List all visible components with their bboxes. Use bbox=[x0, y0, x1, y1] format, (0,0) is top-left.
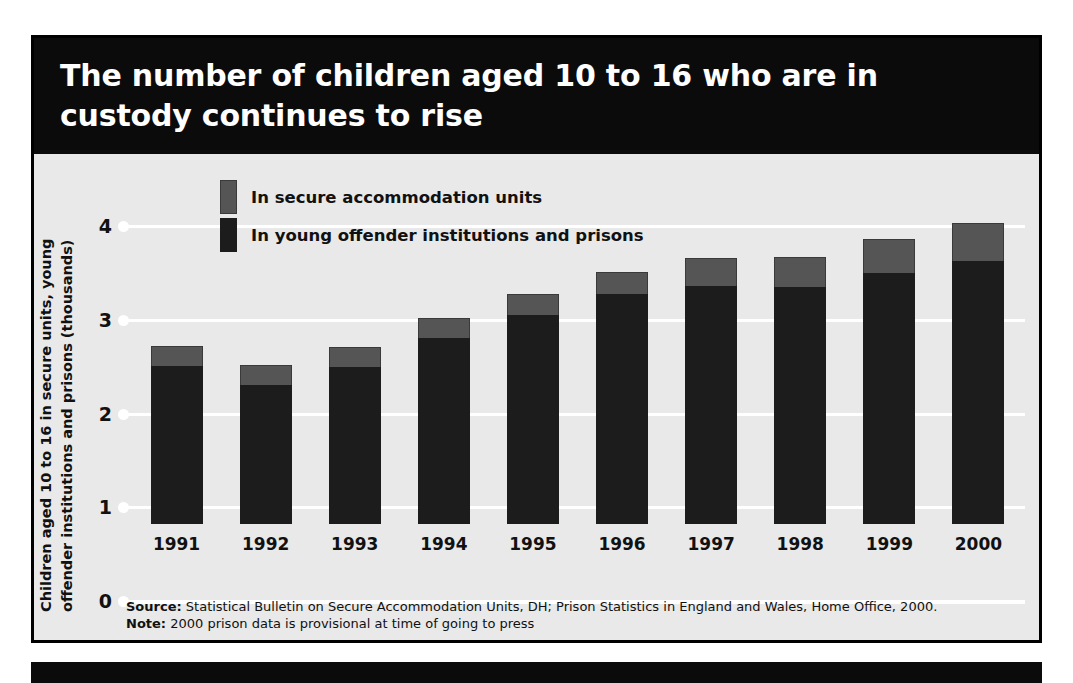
bar-segment-yoi-1998[interactable] bbox=[774, 287, 826, 524]
x-tick-label-2000: 2000 bbox=[955, 534, 1002, 554]
bar-segment-yoi-1999[interactable] bbox=[863, 273, 915, 524]
chart-legend: In secure accommodation units In young o… bbox=[220, 178, 644, 254]
x-tick-label-1991: 1991 bbox=[153, 534, 200, 554]
legend-item-yoi: In young offender institutions and priso… bbox=[220, 216, 644, 254]
bar-group-1993[interactable]: 1993 bbox=[329, 347, 381, 524]
y-axis-label: Children aged 10 to 16 in secure units, … bbox=[36, 182, 78, 612]
x-tick-label-1999: 1999 bbox=[866, 534, 913, 554]
x-tick-label-1995: 1995 bbox=[509, 534, 556, 554]
note-line: Note: 2000 prison data is provisional at… bbox=[126, 615, 1025, 632]
plot-area: Children aged 10 to 16 in secure units, … bbox=[34, 154, 1039, 640]
chart-title: The number of children aged 10 to 16 who… bbox=[60, 56, 1013, 136]
bar-group-1994[interactable]: 1994 bbox=[418, 318, 470, 524]
bar-segment-yoi-1992[interactable] bbox=[240, 385, 292, 524]
note-label: Note: bbox=[126, 616, 166, 631]
bar-segment-yoi-1991[interactable] bbox=[151, 366, 203, 524]
source-line: Source: Statistical Bulletin on Secure A… bbox=[126, 598, 1025, 615]
bar-segment-secure-1991[interactable] bbox=[151, 346, 203, 366]
bar-segment-secure-1996[interactable] bbox=[596, 272, 648, 295]
bar-group-1996[interactable]: 1996 bbox=[596, 272, 648, 524]
legend-swatch-secure-icon bbox=[220, 180, 237, 214]
x-tick-label-1992: 1992 bbox=[242, 534, 289, 554]
footnotes: Source: Statistical Bulletin on Secure A… bbox=[126, 598, 1025, 632]
chart-figure: The number of children aged 10 to 16 who… bbox=[31, 35, 1042, 643]
bar-group-1995[interactable]: 1995 bbox=[507, 294, 559, 524]
legend-swatch-yoi-icon bbox=[220, 218, 237, 252]
bar-group-1992[interactable]: 1992 bbox=[240, 365, 292, 524]
legend-item-secure: In secure accommodation units bbox=[220, 178, 644, 216]
bar-segment-yoi-1993[interactable] bbox=[329, 367, 381, 524]
x-tick-label-1994: 1994 bbox=[420, 534, 467, 554]
y-tick-label-3: 3 bbox=[86, 309, 112, 331]
y-tick-label-2: 2 bbox=[86, 403, 112, 425]
bar-group-1999[interactable]: 1999 bbox=[863, 239, 915, 524]
bar-segment-secure-1998[interactable] bbox=[774, 257, 826, 287]
bottom-black-band bbox=[31, 662, 1042, 683]
bar-segment-secure-2000[interactable] bbox=[952, 223, 1004, 261]
x-tick-label-1996: 1996 bbox=[598, 534, 645, 554]
bar-segment-yoi-1995[interactable] bbox=[507, 315, 559, 524]
x-tick-label-1997: 1997 bbox=[687, 534, 734, 554]
y-tick-label-1: 1 bbox=[86, 496, 112, 518]
y-tick-label-4: 4 bbox=[86, 215, 112, 237]
bar-segment-secure-1995[interactable] bbox=[507, 294, 559, 315]
x-tick-label-1993: 1993 bbox=[331, 534, 378, 554]
legend-label-secure: In secure accommodation units bbox=[251, 188, 542, 207]
x-tick-label-1998: 1998 bbox=[777, 534, 824, 554]
bar-segment-yoi-1996[interactable] bbox=[596, 294, 648, 524]
bar-group-1991[interactable]: 1991 bbox=[151, 346, 203, 524]
note-text: 2000 prison data is provisional at time … bbox=[166, 616, 534, 631]
title-banner: The number of children aged 10 to 16 who… bbox=[34, 38, 1039, 154]
bar-segment-secure-1999[interactable] bbox=[863, 239, 915, 273]
bar-segment-secure-1993[interactable] bbox=[329, 347, 381, 368]
bar-group-2000[interactable]: 2000 bbox=[952, 223, 1004, 524]
y-axis-label-wrapper: Children aged 10 to 16 in secure units, … bbox=[36, 182, 82, 612]
bar-segment-secure-1997[interactable] bbox=[685, 258, 737, 286]
source-label: Source: bbox=[126, 599, 182, 614]
y-tick-label-0: 0 bbox=[86, 590, 112, 612]
bar-group-1997[interactable]: 1997 bbox=[685, 258, 737, 524]
bar-segment-yoi-1994[interactable] bbox=[418, 338, 470, 524]
bar-group-1998[interactable]: 1998 bbox=[774, 257, 826, 524]
legend-label-yoi: In young offender institutions and priso… bbox=[251, 226, 644, 245]
bar-segment-secure-1992[interactable] bbox=[240, 365, 292, 386]
bar-segment-secure-1994[interactable] bbox=[418, 318, 470, 339]
bar-segment-yoi-1997[interactable] bbox=[685, 286, 737, 524]
bar-segment-yoi-2000[interactable] bbox=[952, 261, 1004, 524]
source-text: Statistical Bulletin on Secure Accommoda… bbox=[182, 599, 938, 614]
